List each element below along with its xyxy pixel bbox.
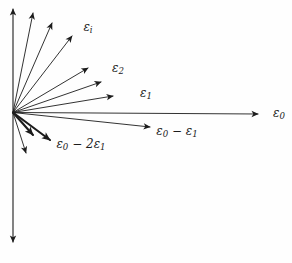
arrow-epsilon-0-minus-eps-1 <box>13 113 150 128</box>
arrow-epsilon-i <box>13 36 72 113</box>
diagram-canvas <box>0 0 292 263</box>
arrow-epsilon-1 <box>13 96 113 113</box>
root-system-figure: εiε2ε1ε0ε0 − ε1ε0 − 2ε1 <box>0 0 292 263</box>
arrows-group <box>13 9 258 242</box>
arrow-fan-upper-2 <box>13 23 52 113</box>
arrow-fan-upper-1 <box>13 13 33 113</box>
arrow-epsilon-0 <box>13 113 258 115</box>
arrow-epsilon-0-minus-2eps-1 <box>13 113 50 141</box>
